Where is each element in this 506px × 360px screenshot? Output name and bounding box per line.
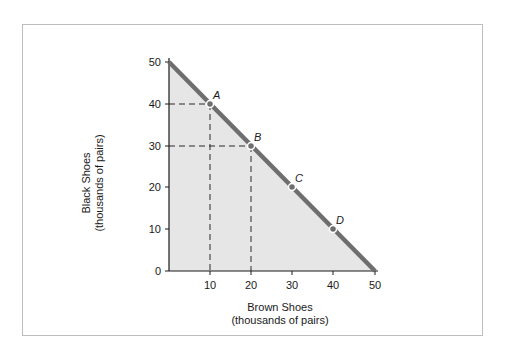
point-c-label: C: [295, 172, 303, 184]
y-axis-label-line1: Black Shoes: [80, 108, 93, 258]
y-tick-0: 0: [155, 265, 161, 277]
x-tick-50: 50: [369, 279, 381, 291]
x-axis-label: Brown Shoes (thousands of pairs): [200, 301, 360, 327]
y-axis-label: Black Shoes (thousands of pairs): [80, 108, 110, 258]
x-tick-30: 30: [286, 279, 298, 291]
x-tick-40: 40: [327, 279, 339, 291]
point-b: [248, 143, 255, 150]
x-axis-label-line2: (thousands of pairs): [200, 314, 360, 327]
x-tick-10: 10: [204, 279, 216, 291]
y-tick-10: 10: [149, 223, 161, 235]
point-d: [330, 226, 337, 233]
y-tick-40: 40: [149, 98, 161, 110]
x-tick-20: 20: [245, 279, 257, 291]
point-a: [207, 101, 214, 108]
point-b-label: B: [254, 131, 261, 143]
y-tick-30: 30: [149, 140, 161, 152]
y-tick-20: 20: [149, 181, 161, 193]
y-tick-50: 50: [149, 56, 161, 68]
y-axis-label-line2: (thousands of pairs): [93, 108, 106, 258]
point-c: [289, 184, 296, 191]
point-a-label: A: [212, 89, 220, 101]
point-d-label: D: [336, 214, 344, 226]
x-axis-label-line1: Brown Shoes: [200, 301, 360, 314]
